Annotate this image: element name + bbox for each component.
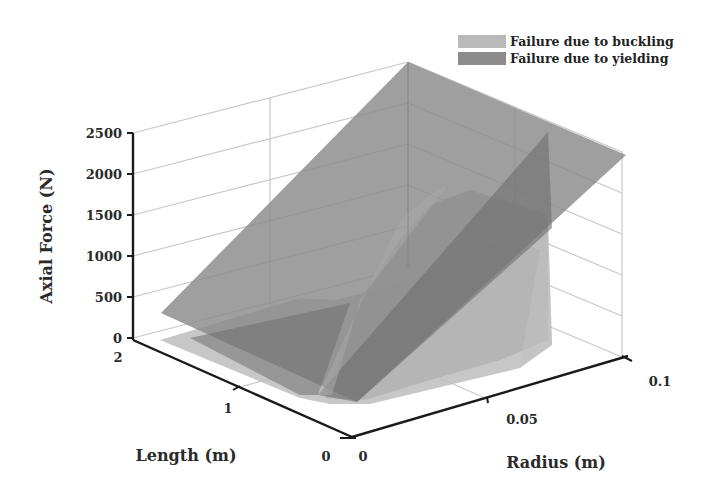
radius-axis-title: Radius (m)	[506, 453, 606, 472]
legend-label-buckling: Failure due to buckling	[510, 34, 674, 49]
z-tick-2000: 2000	[86, 167, 122, 182]
legend-label-yielding: Failure due to yielding	[510, 51, 669, 66]
surface-chart: 2500 2000 1500 1000 500 0 2 1 0 0 0.05 0…	[0, 0, 705, 495]
z-tick-0: 0	[113, 331, 122, 346]
legend-swatch-yielding	[458, 52, 506, 65]
z-tick-1000: 1000	[86, 249, 122, 264]
legend-swatch-buckling	[458, 35, 506, 48]
radius-tick-0.05: 0.05	[506, 412, 538, 427]
length-axis-title: Length (m)	[136, 446, 237, 465]
z-tick-2500: 2500	[86, 126, 122, 141]
yielding-surface	[161, 62, 626, 402]
z-tick-500: 500	[95, 290, 122, 305]
length-tick-0: 0	[321, 449, 330, 464]
z-tick-1500: 1500	[86, 208, 122, 223]
legend: Failure due to buckling Failure due to y…	[458, 34, 674, 66]
radius-tick-0: 0	[358, 449, 367, 464]
z-tick-labels: 2500 2000 1500 1000 500 0	[86, 126, 122, 346]
length-tick-1: 1	[223, 401, 232, 416]
length-tick-2: 2	[113, 350, 122, 365]
radius-tick-0.1: 0.1	[649, 374, 672, 389]
z-axis-title: Axial Force (N)	[37, 169, 56, 305]
